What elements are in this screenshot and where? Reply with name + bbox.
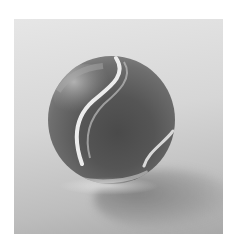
marble-base-reflection [59,177,159,195]
marble [48,56,175,184]
marble-swirl [48,56,175,184]
marble-photo [14,19,223,234]
